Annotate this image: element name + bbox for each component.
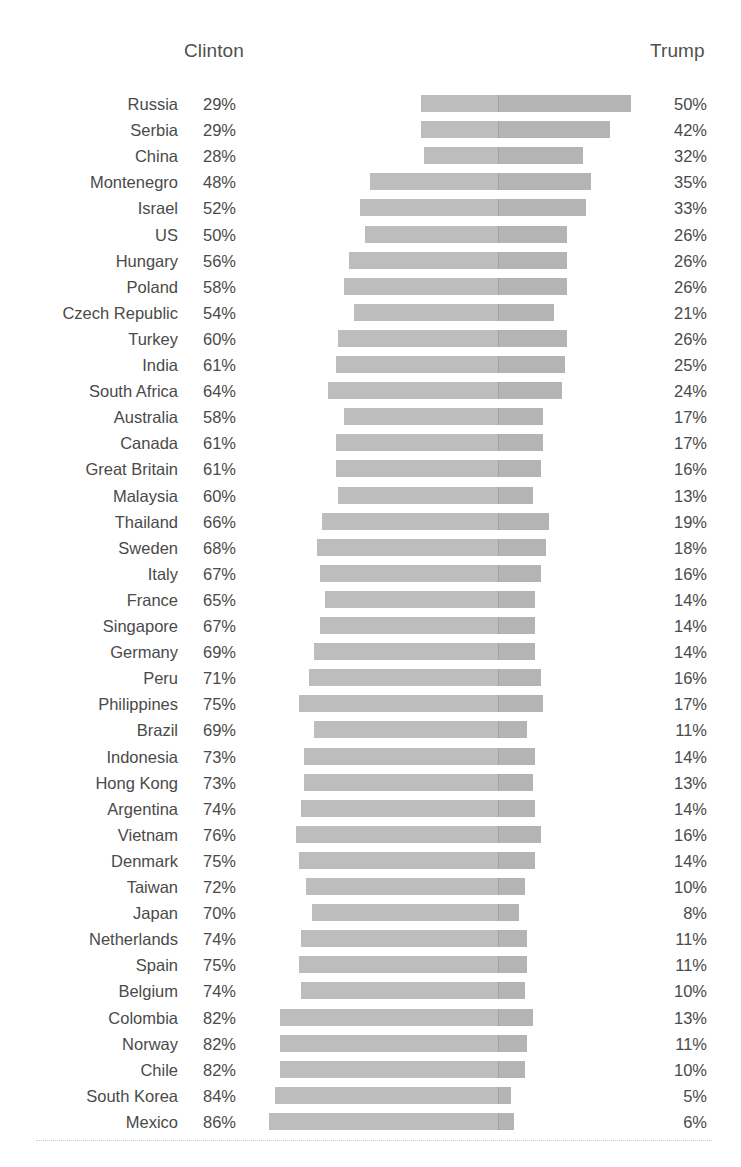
- center-axis-divider: [498, 1113, 499, 1130]
- chart-row: South Korea84%5%: [0, 1084, 741, 1110]
- center-axis-divider: [498, 565, 499, 582]
- clinton-bar: [424, 147, 498, 164]
- clinton-bar: [322, 513, 498, 530]
- trump-value: 16%: [655, 459, 707, 479]
- bar-track: [0, 1058, 741, 1084]
- chart-row: Chile82%10%: [0, 1058, 741, 1084]
- chart-row: Czech Republic54%21%: [0, 301, 741, 327]
- center-axis-divider: [498, 1035, 499, 1052]
- trump-bar: [498, 565, 541, 582]
- trump-bar: [498, 252, 567, 269]
- chart-row: Russia29%50%: [0, 92, 741, 118]
- clinton-bar: [336, 434, 498, 451]
- bar-track: [0, 797, 741, 823]
- trump-value: 14%: [655, 799, 707, 819]
- trump-bar: [498, 643, 535, 660]
- bar-track: [0, 692, 741, 718]
- clinton-bar: [299, 695, 499, 712]
- bar-track: [0, 1032, 741, 1058]
- trump-value: 10%: [655, 877, 707, 897]
- center-axis-divider: [498, 852, 499, 869]
- chart-row: Japan70%8%: [0, 901, 741, 927]
- trump-bar: [498, 304, 554, 321]
- bar-track: [0, 823, 741, 849]
- trump-value: 50%: [655, 94, 707, 114]
- clinton-bar: [320, 617, 498, 634]
- trump-bar: [498, 982, 525, 999]
- center-axis-divider: [498, 199, 499, 216]
- bar-track: [0, 745, 741, 771]
- trump-bar: [498, 826, 541, 843]
- bar-track: [0, 510, 741, 536]
- clinton-bar: [280, 1009, 498, 1026]
- trump-bar: [498, 1035, 527, 1052]
- clinton-bar: [370, 173, 498, 190]
- chart-row: Philippines75%17%: [0, 692, 741, 718]
- center-axis-divider: [498, 356, 499, 373]
- center-axis-divider: [498, 748, 499, 765]
- trump-value: 13%: [655, 773, 707, 793]
- chart-row: Italy67%16%: [0, 562, 741, 588]
- trump-bar: [498, 695, 543, 712]
- center-axis-divider: [498, 304, 499, 321]
- center-axis-divider: [498, 643, 499, 660]
- center-axis-divider: [498, 982, 499, 999]
- trump-value: 8%: [655, 903, 707, 923]
- trump-value: 6%: [655, 1112, 707, 1132]
- trump-bar: [498, 956, 527, 973]
- trump-bar: [498, 382, 562, 399]
- bar-track: [0, 666, 741, 692]
- center-axis-divider: [498, 617, 499, 634]
- chart-row: Singapore67%14%: [0, 614, 741, 640]
- chart-row: Colombia82%13%: [0, 1006, 741, 1032]
- chart-row: Mexico86%6%: [0, 1110, 741, 1136]
- chart-row: France65%14%: [0, 588, 741, 614]
- bar-track: [0, 249, 741, 275]
- clinton-bar: [304, 748, 498, 765]
- diverging-bar-chart: Clinton Trump Russia29%50%Serbia29%42%Ch…: [0, 0, 741, 1167]
- center-axis-divider: [498, 121, 499, 138]
- center-axis-divider: [498, 826, 499, 843]
- bar-track: [0, 301, 741, 327]
- trump-value: 13%: [655, 1008, 707, 1028]
- bar-track: [0, 118, 741, 144]
- trump-bar: [498, 356, 565, 373]
- chart-row: US50%26%: [0, 223, 741, 249]
- trump-bar: [498, 434, 543, 451]
- trump-value: 17%: [655, 433, 707, 453]
- clinton-bar: [306, 878, 498, 895]
- clinton-bar: [304, 774, 498, 791]
- trump-bar: [498, 591, 535, 608]
- bar-track: [0, 640, 741, 666]
- trump-value: 33%: [655, 198, 707, 218]
- center-axis-divider: [498, 904, 499, 921]
- trump-value: 26%: [655, 277, 707, 297]
- clinton-bar: [275, 1087, 498, 1104]
- center-axis-divider: [498, 539, 499, 556]
- chart-row: Hong Kong73%13%: [0, 771, 741, 797]
- bar-track: [0, 536, 741, 562]
- chart-row: Spain75%11%: [0, 953, 741, 979]
- chart-row: India61%25%: [0, 353, 741, 379]
- clinton-bar: [338, 330, 498, 347]
- bar-track: [0, 771, 741, 797]
- clinton-bar: [349, 252, 498, 269]
- bar-track: [0, 718, 741, 744]
- bar-track: [0, 431, 741, 457]
- bar-track: [0, 92, 741, 118]
- trump-value: 16%: [655, 564, 707, 584]
- trump-value: 14%: [655, 616, 707, 636]
- trump-value: 25%: [655, 355, 707, 375]
- bar-track: [0, 901, 741, 927]
- chart-row: Peru71%16%: [0, 666, 741, 692]
- trump-value: 18%: [655, 538, 707, 558]
- chart-row: China28%32%: [0, 144, 741, 170]
- bar-track: [0, 379, 741, 405]
- center-axis-divider: [498, 330, 499, 347]
- center-axis-divider: [498, 513, 499, 530]
- trump-bar: [498, 800, 535, 817]
- trump-bar: [498, 147, 583, 164]
- center-axis-divider: [498, 1061, 499, 1078]
- trump-value: 26%: [655, 225, 707, 245]
- chart-row: Montenegro48%35%: [0, 170, 741, 196]
